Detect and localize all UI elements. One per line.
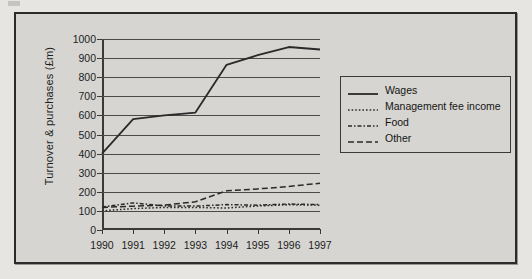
y-tick-label: 100 xyxy=(78,205,96,217)
x-tick-label: 1992 xyxy=(153,239,176,251)
x-tick-label: 1990 xyxy=(90,239,113,251)
series-line-wages xyxy=(102,47,320,154)
legend-label: Other xyxy=(385,132,411,144)
x-tick-label: 1991 xyxy=(121,239,144,251)
y-tick-label: 700 xyxy=(78,90,96,102)
legend-item-food[interactable]: Food xyxy=(348,114,501,130)
legend-label: Wages xyxy=(385,84,417,96)
series-line-other xyxy=(102,183,320,207)
chart-legend: WagesManagement fee incomeFoodOther xyxy=(340,76,511,153)
x-tick-label: 1996 xyxy=(277,239,300,251)
y-tick-label: 500 xyxy=(78,129,96,141)
legend-item-other[interactable]: Other xyxy=(348,130,501,146)
y-tick-label: 200 xyxy=(78,186,96,198)
scan-artifact-mark xyxy=(8,1,20,6)
y-tick-label: 900 xyxy=(78,52,96,64)
y-tick-label: 300 xyxy=(78,167,96,179)
legend-label: Food xyxy=(385,116,409,128)
x-tick-label: 1995 xyxy=(246,239,269,251)
legend-swatch-dashed-icon xyxy=(348,133,378,143)
y-tick-label: 800 xyxy=(78,71,96,83)
y-axis-title: Turnover & purchases (£m) xyxy=(43,36,55,196)
y-tick-label: 1000 xyxy=(73,33,96,45)
y-tick-label: 400 xyxy=(78,148,96,160)
x-tick-mark xyxy=(320,229,321,234)
legend-label: Management fee income xyxy=(385,100,501,112)
y-tick-label: 600 xyxy=(78,109,96,121)
plot-area: 01002003004005006007008009001000 1990199… xyxy=(102,39,320,230)
chart-page: Turnover & purchases (£m) 01002003004005… xyxy=(0,0,532,279)
x-tick-label: 1993 xyxy=(184,239,207,251)
legend-swatch-dotted-icon xyxy=(348,101,378,111)
x-tick-label: 1997 xyxy=(308,239,331,251)
legend-swatch-solid-icon xyxy=(348,85,378,95)
series-lines xyxy=(102,39,320,230)
legend-item-wages[interactable]: Wages xyxy=(348,82,501,98)
legend-swatch-dashdot-icon xyxy=(348,117,378,127)
legend-item-management-fee-income[interactable]: Management fee income xyxy=(348,98,501,114)
x-tick-label: 1994 xyxy=(215,239,238,251)
chart-figure: Turnover & purchases (£m) 01002003004005… xyxy=(14,12,517,264)
y-tick-label: 0 xyxy=(90,224,96,236)
